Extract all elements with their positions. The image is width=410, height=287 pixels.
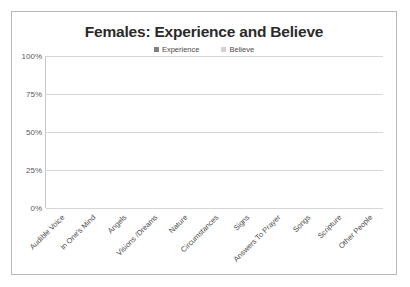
x-axis-label-text: Signs: [231, 213, 251, 233]
x-axis-label-cell: Visions /Dreams: [137, 208, 168, 286]
x-axis-label-text: Songs: [291, 213, 312, 234]
x-axis-label-text: Nature: [167, 213, 189, 235]
bar-group[interactable]: [138, 56, 169, 208]
ytick-label-0: 0%: [30, 204, 42, 213]
bar-group[interactable]: [260, 56, 291, 208]
chart-title: Females: Experience and Believe: [12, 23, 396, 41]
x-axis-label-cell: Other People: [352, 208, 383, 286]
ytick-label-25: 25%: [26, 166, 42, 175]
bar-group[interactable]: [322, 56, 353, 208]
legend-item-believe[interactable]: Believe: [221, 45, 254, 54]
bar-group[interactable]: [46, 56, 77, 208]
legend-label-believe: Believe: [229, 45, 254, 54]
legend-item-experience[interactable]: Experience: [154, 45, 200, 54]
x-axis-label-cell: Circumstances: [199, 208, 230, 286]
x-axis-label-cell: Songs: [291, 208, 322, 286]
ytick-label-100: 100%: [22, 52, 42, 61]
ytick-label-75: 75%: [26, 90, 42, 99]
x-axis-label-text: Angels: [106, 213, 129, 236]
ytick-label-50: 50%: [26, 128, 42, 137]
bar-group[interactable]: [352, 56, 383, 208]
x-axis-labels: Audible VoiceIn One's MindAngelsVisions …: [45, 208, 383, 286]
bar-group[interactable]: [199, 56, 230, 208]
legend-label-experience: Experience: [162, 45, 200, 54]
legend-swatch-believe: [221, 47, 226, 52]
chart-legend: Experience Believe: [12, 45, 396, 54]
legend-swatch-experience: [154, 47, 159, 52]
x-axis-label-cell: Answers To Prayer: [260, 208, 291, 286]
x-axis-label-cell: In One's Mind: [76, 208, 107, 286]
chart-frame: Females: Experience and Believe Experien…: [11, 11, 397, 275]
x-axis-label-cell: Scripture: [322, 208, 353, 286]
